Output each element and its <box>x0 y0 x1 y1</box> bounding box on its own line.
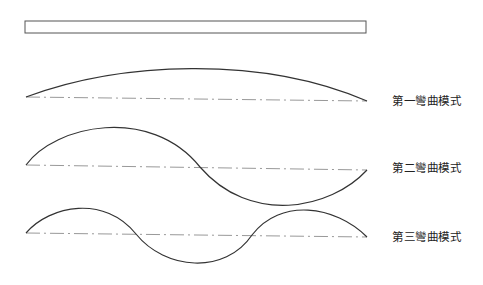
mode-1-axis <box>26 97 367 101</box>
mode-3-label: 第三彎曲模式 <box>392 228 461 244</box>
mode-2-axis <box>26 165 367 170</box>
beam <box>25 21 366 33</box>
mode-1-curve <box>26 69 367 101</box>
mode-3-axis <box>26 233 367 237</box>
mode-2-curve <box>26 127 367 205</box>
mode-1-label: 第一彎曲模式 <box>392 92 461 108</box>
mode-3-curve <box>26 208 367 263</box>
mode-2-label: 第二彎曲模式 <box>392 159 461 175</box>
